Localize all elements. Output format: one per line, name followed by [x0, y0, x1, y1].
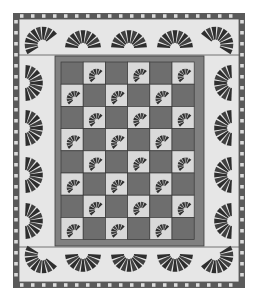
checker-square — [14, 273, 18, 277]
checker-square — [240, 31, 244, 35]
grid-cell-dark — [172, 129, 194, 151]
checker-square — [14, 130, 18, 134]
checker-square — [14, 42, 18, 46]
grid-cell-dark — [172, 217, 194, 239]
checker-square — [207, 283, 211, 287]
checker-square — [240, 174, 244, 178]
checker-square — [240, 53, 244, 57]
checker-square — [240, 130, 244, 134]
grid-cell-dark — [61, 62, 83, 84]
checker-square — [14, 119, 18, 123]
checker-square — [108, 283, 112, 287]
grid-cell-dark — [128, 217, 150, 239]
checker-square — [64, 283, 68, 287]
checker-square — [240, 42, 244, 46]
grid-cell-dark — [128, 129, 150, 151]
checker-square — [240, 75, 244, 79]
grid-cell-dark — [150, 62, 172, 84]
checker-square — [42, 14, 46, 18]
checker-square — [196, 283, 200, 287]
checker-square — [14, 141, 18, 145]
checker-square — [141, 14, 145, 18]
checker-square — [14, 97, 18, 101]
checker-square — [174, 283, 178, 287]
grid-cell-dark — [61, 151, 83, 173]
grid-cell-dark — [83, 129, 105, 151]
checker-square — [20, 14, 24, 18]
checker-square — [20, 283, 24, 287]
checker-square — [31, 283, 35, 287]
checker-square — [174, 14, 178, 18]
grid-cell-dark — [150, 106, 172, 128]
checker-square — [119, 283, 123, 287]
checker-square — [14, 196, 18, 200]
checker-square — [240, 218, 244, 222]
grid-cell-dark — [83, 173, 105, 195]
checker-square — [14, 174, 18, 178]
checker-square — [240, 196, 244, 200]
grid-cell-dark — [83, 217, 105, 239]
grid-cell-dark — [105, 195, 127, 217]
checker-square — [229, 14, 233, 18]
checker-square — [31, 14, 35, 18]
grid-cell-dark — [105, 106, 127, 128]
checker-square — [14, 152, 18, 156]
checker-square — [14, 218, 18, 222]
checker-square — [240, 152, 244, 156]
checker-square — [240, 119, 244, 123]
checker-square — [240, 273, 244, 277]
checker-square — [64, 14, 68, 18]
checker-square — [185, 14, 189, 18]
checker-square — [240, 207, 244, 211]
checker-square — [152, 14, 156, 18]
checker-square — [14, 207, 18, 211]
checker-square — [240, 251, 244, 255]
grid-cell-dark — [128, 173, 150, 195]
checker-square — [75, 14, 79, 18]
checker-square — [240, 86, 244, 90]
checker-square — [218, 14, 222, 18]
checker-square — [97, 14, 101, 18]
checker-square — [53, 14, 57, 18]
grid-cell-dark — [150, 151, 172, 173]
grid-cell-dark — [172, 84, 194, 106]
checker-square — [141, 283, 145, 287]
checker-square — [119, 14, 123, 18]
grid-cell-dark — [128, 84, 150, 106]
grid-cell-dark — [105, 151, 127, 173]
checker-square — [14, 229, 18, 233]
checker-square — [14, 20, 18, 24]
checker-square — [207, 14, 211, 18]
grid-cell-dark — [61, 106, 83, 128]
grid-cell-dark — [83, 84, 105, 106]
checker-square — [75, 283, 79, 287]
checker-square — [14, 75, 18, 79]
grid-cell-dark — [61, 195, 83, 217]
checker-square — [14, 185, 18, 189]
checker-square — [240, 262, 244, 266]
checker-square — [14, 240, 18, 244]
checker-square — [218, 283, 222, 287]
checker-square — [97, 283, 101, 287]
checker-square — [240, 64, 244, 68]
checker-square — [53, 283, 57, 287]
grid-cell-dark — [150, 195, 172, 217]
checker-square — [14, 31, 18, 35]
grid-cell-dark — [172, 173, 194, 195]
checker-square — [14, 86, 18, 90]
checker-square — [14, 163, 18, 167]
checker-square — [240, 163, 244, 167]
checker-square — [14, 262, 18, 266]
checker-square — [163, 14, 167, 18]
quilt-image — [0, 0, 255, 300]
checker-square — [14, 108, 18, 112]
checker-square — [14, 64, 18, 68]
checker-square — [240, 141, 244, 145]
checker-square — [86, 14, 90, 18]
checker-square — [14, 53, 18, 57]
checker-square — [196, 14, 200, 18]
checker-square — [14, 251, 18, 255]
checker-square — [42, 283, 46, 287]
checker-square — [240, 108, 244, 112]
grid-cell-dark — [105, 62, 127, 84]
